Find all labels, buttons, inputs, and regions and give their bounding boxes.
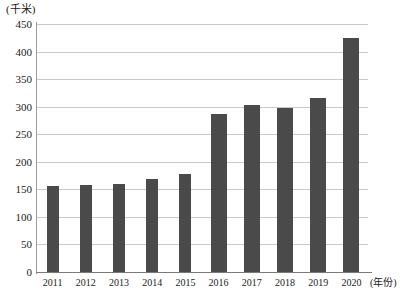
y-tick-label: 300 — [2, 102, 32, 113]
y-tick-label: 450 — [2, 19, 32, 30]
bar — [113, 184, 125, 272]
y-tick-label: 150 — [2, 184, 32, 195]
x-tick-label: 2019 — [302, 277, 334, 289]
y-tick-label: 100 — [2, 212, 32, 223]
bar — [179, 174, 191, 272]
bar — [146, 179, 158, 272]
x-tick-label: 2017 — [236, 277, 268, 289]
bar — [211, 114, 227, 272]
x-tick-label: 2020 — [335, 277, 367, 289]
bar — [80, 185, 92, 272]
bar — [244, 105, 260, 272]
x-tick-label: 2013 — [103, 277, 135, 289]
bar — [343, 38, 359, 272]
x-axis-line — [36, 272, 372, 273]
y-axis-unit-label: (千米) — [6, 3, 35, 15]
x-tick-label: 2016 — [203, 277, 235, 289]
bar — [310, 98, 326, 272]
y-tick-label: 0 — [2, 267, 32, 278]
y-tick-label: 200 — [2, 157, 32, 168]
x-tick-label: 2011 — [37, 277, 69, 289]
x-tick-label: 2015 — [169, 277, 201, 289]
y-tick-label: 400 — [2, 47, 32, 58]
bar — [277, 108, 293, 272]
bar — [47, 186, 59, 272]
bar-chart: (千米) 050100150200250300350400450 2011201… — [0, 0, 402, 302]
x-tick-label: 2014 — [136, 277, 168, 289]
y-tick-label: 50 — [2, 239, 32, 250]
bars-layer — [36, 24, 368, 272]
x-axis-unit-label: (年份) — [370, 277, 397, 289]
y-tick-label: 350 — [2, 74, 32, 85]
x-tick-label: 2012 — [70, 277, 102, 289]
y-tick-label: 250 — [2, 129, 32, 140]
x-tick-label: 2018 — [269, 277, 301, 289]
